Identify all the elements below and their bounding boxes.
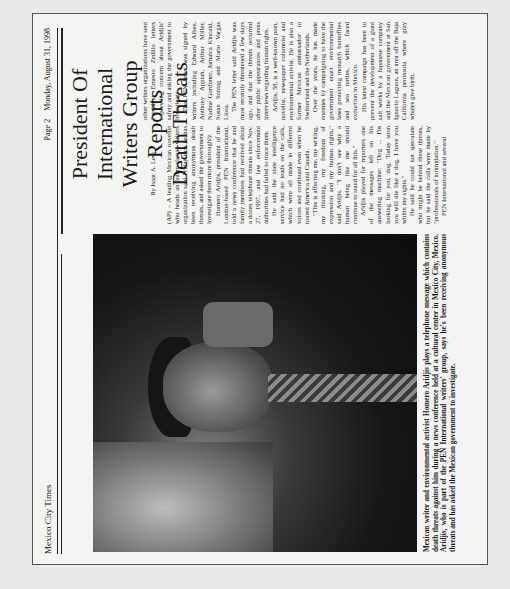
photo-face	[163, 342, 273, 432]
paragraph: The PEN letter said Aridjis was most rec…	[230, 22, 270, 120]
paragraph: "This is affecting me, my writing, my th…	[311, 126, 360, 224]
photo-tie	[268, 374, 417, 402]
photo-telephone	[203, 302, 273, 347]
article-column-1: (AP) – A leading Mexican novelist who he…	[165, 126, 448, 224]
page-info: Page 2 Monday, August 31, 1998	[43, 28, 52, 146]
paragraph: Aridjis played for reporters one of the …	[359, 126, 408, 224]
photo-background	[93, 442, 273, 552]
article-column-2: other writers organizations have sent Pr…	[141, 22, 416, 120]
publication-name: Mexico City Times	[43, 484, 53, 554]
headline-line: President Of International	[67, 24, 117, 224]
byline: By Isaac A. Levi	[149, 124, 156, 224]
masthead-rule	[57, 28, 58, 554]
page-number: Page 2	[43, 119, 52, 141]
masthead: Mexico City Times Page 2 Monday, August …	[43, 28, 61, 554]
masthead-rule-thick	[61, 28, 63, 234]
paragraph: His latest campaign has been to prevent …	[360, 22, 417, 120]
paragraph: PEN International and several	[440, 126, 448, 224]
news-photo	[93, 234, 417, 552]
paragraph: Aridjis, 58, is a well-known poet, novel…	[271, 22, 311, 120]
newspaper-page: Mexico City Times Page 2 Monday, August …	[32, 13, 488, 565]
paragraph: The PEN letter was signed by writers inc…	[181, 22, 230, 120]
paragraph: Over the years, he has made enemies by c…	[311, 22, 360, 120]
paragraph: Homero Aridjis, president of the London-…	[214, 126, 271, 224]
paragraph: (AP) – A leading Mexican novelist who he…	[165, 126, 214, 224]
issue-date: Monday, August 31, 1998	[43, 28, 52, 111]
paragraph: He said he could not speculate who might…	[408, 126, 440, 224]
paragraph: He said the state intelligence service h…	[270, 126, 310, 224]
masthead-rule-left	[61, 254, 62, 554]
paragraph: other writers organizations have sent Pr…	[141, 22, 181, 120]
photo-caption: Mexican writer and environmental activis…	[423, 234, 457, 552]
